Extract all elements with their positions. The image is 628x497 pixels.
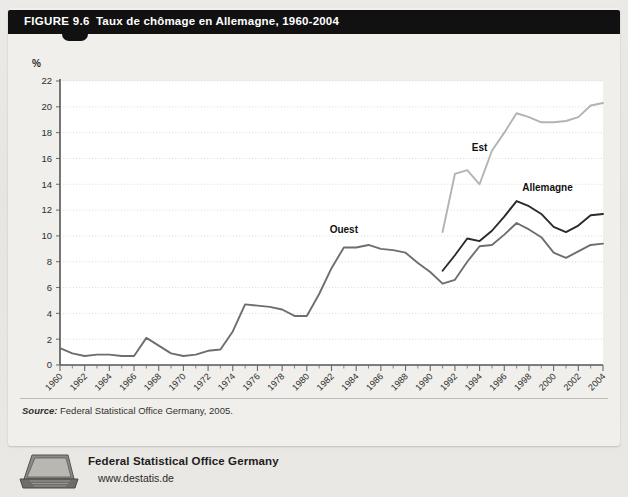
x-tick-label: 1982 (315, 371, 336, 392)
series-annotation-ouest: Ouest (330, 224, 359, 235)
y-tick-label: 12 (41, 204, 52, 215)
x-tick-label: 1964 (93, 371, 114, 392)
chart-area: % 02468101214161820221960196219641966196… (8, 34, 620, 400)
x-tick-label: 1976 (241, 371, 262, 392)
page-background: FIGURE 9.6 Taux de chômage en Allemagne,… (0, 0, 628, 497)
x-tick-label: 1978 (265, 371, 286, 392)
x-tick-label: 1974 (216, 371, 237, 392)
x-tick-label: 2004 (586, 371, 607, 392)
series-annotation-est: Est (472, 142, 488, 153)
source-prefix: Source: (22, 405, 57, 416)
x-tick-label: 1994 (463, 371, 484, 392)
y-tick-label: 2 (47, 334, 52, 345)
y-tick-label: 18 (41, 127, 52, 138)
x-tick-label: 1960 (43, 371, 64, 392)
y-tick-label: 8 (47, 256, 52, 267)
source-note: Source: Federal Statistical Office Germa… (22, 405, 233, 416)
x-tick-label: 1970 (167, 371, 188, 392)
x-tick-label: 1980 (290, 371, 311, 392)
figure-title: Taux de chômage en Allemagne, 1960-2004 (96, 15, 339, 27)
x-tick-label: 2002 (561, 371, 582, 392)
unemployment-line-chart: 0246810121416182022196019621964196619681… (8, 34, 620, 400)
series-annotation-allemagne: Allemagne (522, 182, 573, 193)
y-tick-label: 14 (41, 179, 52, 190)
x-tick-label: 1988 (389, 371, 410, 392)
x-tick-label: 1986 (364, 371, 385, 392)
y-tick-label: 10 (41, 230, 52, 241)
x-tick-label: 1968 (142, 371, 163, 392)
x-tick-label: 1972 (191, 371, 212, 392)
y-tick-label: 6 (47, 282, 52, 293)
y-tick-label: 4 (47, 308, 52, 319)
y-tick-label: 20 (41, 101, 52, 112)
footer: Federal Statistical Office Germany www.d… (14, 452, 614, 494)
x-tick-label: 1990 (413, 371, 434, 392)
footer-website: www.destatis.de (98, 472, 174, 484)
y-tick-label: 0 (47, 359, 52, 370)
y-tick-label: 16 (41, 153, 52, 164)
footer-organization: Federal Statistical Office Germany (88, 455, 279, 467)
x-tick-label: 1966 (117, 371, 138, 392)
figure-number: FIGURE 9.6 (24, 15, 90, 27)
x-tick-label: 2000 (537, 371, 558, 392)
figure-title-bar: FIGURE 9.6 Taux de chômage en Allemagne,… (8, 10, 620, 34)
x-tick-label: 1984 (339, 371, 360, 392)
source-text: Federal Statistical Office Germany, 2005… (57, 405, 232, 416)
x-tick-label: 1992 (438, 371, 459, 392)
x-tick-label: 1998 (512, 371, 533, 392)
source-divider (20, 398, 608, 399)
x-tick-label: 1962 (68, 371, 89, 392)
x-tick-label: 1996 (487, 371, 508, 392)
laptop-icon (18, 452, 80, 494)
y-tick-label: 22 (41, 75, 52, 86)
